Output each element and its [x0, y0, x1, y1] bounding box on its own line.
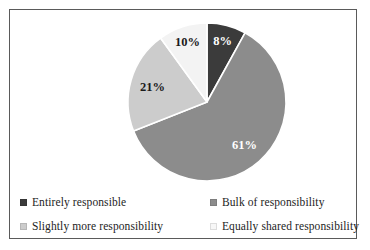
pie-slice-value-label: 8% — [213, 34, 232, 48]
pie-slice-value-label: 21% — [140, 80, 165, 94]
pie-svg: 8%61%21%10% — [120, 16, 290, 188]
square-marker-icon — [20, 199, 27, 206]
pie-chart-area: 8%61%21%10% — [10, 10, 358, 190]
pie-chart: 8%61%21%10% — [120, 16, 290, 188]
chart-frame: 8%61%21%10% Entirely responsible Bulk of… — [9, 9, 357, 239]
legend-item-slightly-more-responsibility[interactable]: Slightly more responsibility — [20, 220, 206, 232]
legend-label: Entirely responsible — [32, 196, 126, 208]
legend-label: Slightly more responsibility — [32, 220, 163, 232]
legend-label: Bulk of responsibility — [222, 196, 325, 208]
chart-page: 8%61%21%10% Entirely responsible Bulk of… — [0, 0, 370, 250]
legend-item-entirely-responsible[interactable]: Entirely responsible — [20, 196, 206, 208]
square-marker-icon — [210, 223, 217, 230]
legend-label: Equally shared responsibility — [222, 220, 359, 232]
legend-item-bulk-of-responsibility[interactable]: Bulk of responsibility — [206, 196, 358, 208]
chart-legend: Entirely responsible Bulk of responsibil… — [20, 190, 358, 238]
pie-slice-value-label: 61% — [232, 138, 257, 152]
pie-slice-group — [128, 23, 286, 181]
pie-slice-value-label: 10% — [175, 35, 200, 49]
square-marker-icon — [210, 199, 217, 206]
legend-item-equally-shared-responsibility[interactable]: Equally shared responsibility — [206, 220, 358, 232]
square-marker-icon — [20, 223, 27, 230]
